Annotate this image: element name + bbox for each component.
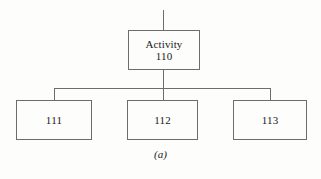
parent-inbound-stem-line [163, 10, 164, 30]
node-113[interactable]: 113 [233, 100, 307, 140]
node-111[interactable]: 111 [16, 100, 92, 140]
bus-to-node-112-connector-line [163, 88, 164, 100]
node-112-code: 112 [154, 114, 171, 126]
node-113-code: 113 [262, 114, 279, 126]
node-activity-110-code: 110 [156, 50, 173, 62]
figure-caption: (a) [0, 148, 321, 160]
node-112[interactable]: 112 [127, 100, 198, 140]
node-111-code: 111 [46, 114, 62, 126]
bus-to-node-111-connector-line [54, 88, 55, 100]
node-activity-110-label: Activity [146, 38, 183, 50]
bus-to-node-113-connector-line [270, 88, 271, 100]
node-activity-110[interactable]: Activity 110 [128, 30, 200, 70]
wbs-diagram: Activity 110 111 112 113 (a) [0, 0, 321, 179]
parent-to-bus-connector-line [163, 70, 164, 89]
